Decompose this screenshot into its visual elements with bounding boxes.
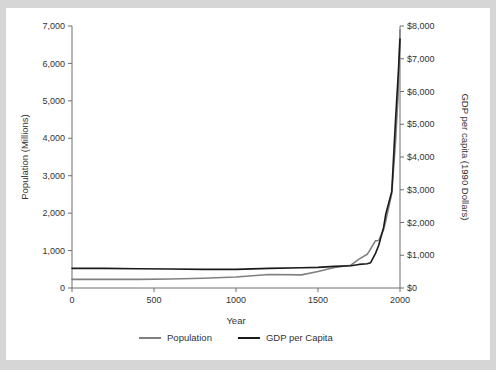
right-tick-label: $5,000 <box>407 119 435 129</box>
left-tick-label: 5,000 <box>42 96 65 106</box>
right-tick-label: $1,000 <box>407 250 435 260</box>
x-tick-label: 2000 <box>390 295 410 305</box>
legend-label-population: Population <box>167 332 212 343</box>
left-tick-label: 3,000 <box>42 171 65 181</box>
x-tick-label: 1500 <box>308 295 328 305</box>
series-line-gdp-per-capita <box>72 39 400 269</box>
series-line-population <box>72 30 400 280</box>
x-axis-title: Year <box>226 315 245 326</box>
right-tick-label: $3,000 <box>407 185 435 195</box>
left-axis-ticks: 01,0002,0003,0004,0005,0006,0007,000 <box>42 21 72 293</box>
right-tick-label: $6,000 <box>407 87 435 97</box>
x-tick-label: 500 <box>146 295 161 305</box>
left-tick-label: 1,000 <box>42 246 65 256</box>
chart-legend: PopulationGDP per Capita <box>139 332 333 343</box>
left-tick-label: 6,000 <box>42 59 65 69</box>
population-gdp-line-chart: 01,0002,0003,0004,0005,0006,0007,000 $0$… <box>6 8 490 360</box>
left-tick-label: 2,000 <box>42 208 65 218</box>
right-tick-label: $2,000 <box>407 218 435 228</box>
right-tick-label: $0 <box>407 283 417 293</box>
x-tick-label: 1000 <box>226 295 246 305</box>
left-tick-label: 7,000 <box>42 21 65 31</box>
right-tick-label: $8,000 <box>407 21 435 31</box>
right-axis-ticks: $0$1,000$2,000$3,000$4,000$5,000$6,000$7… <box>400 21 435 293</box>
chart-figure: 01,0002,0003,0004,0005,0006,0007,000 $0$… <box>6 8 490 360</box>
left-tick-label: 4,000 <box>42 133 65 143</box>
chart-card: 01,0002,0003,0004,0005,0006,0007,000 $0$… <box>6 8 490 360</box>
left-tick-label: 0 <box>60 283 65 293</box>
x-axis-ticks: 0500100015002000 <box>69 288 410 305</box>
right-tick-label: $7,000 <box>407 54 435 64</box>
legend-label-gdp-per-capita: GDP per Capita <box>266 332 334 343</box>
x-tick-label: 0 <box>69 295 74 305</box>
left-axis-title: Population (Millions) <box>19 114 30 200</box>
series-group <box>72 30 400 280</box>
right-axis-title: GDP per capita (1990 Dollars) <box>460 93 471 220</box>
right-tick-label: $4,000 <box>407 152 435 162</box>
